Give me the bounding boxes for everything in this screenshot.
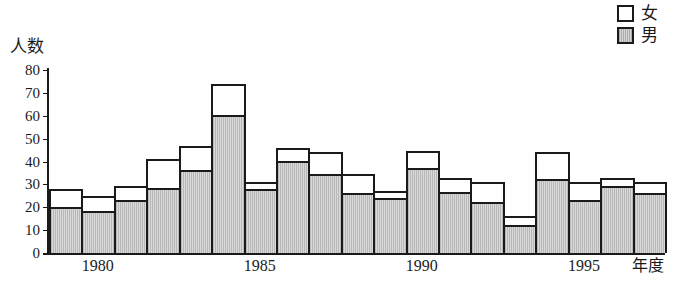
y-tick-label: 80 [25, 63, 40, 78]
bar-1979 [49, 189, 83, 253]
bar-segment-male [408, 170, 438, 253]
bar-segment-male [505, 227, 535, 253]
bar-segment-female [213, 86, 243, 118]
bar-segment-male [310, 176, 340, 253]
bar-segment-male [213, 117, 243, 253]
y-tick-label: 60 [25, 108, 40, 123]
y-tick-label: 50 [25, 131, 40, 146]
bar-segment-male [537, 181, 567, 253]
y-tick-mark [43, 139, 48, 140]
y-tick-label: 0 [33, 246, 41, 261]
y-tick-label: 70 [25, 85, 40, 100]
bar-segment-female [310, 154, 340, 175]
x-tick-label-1980: 1980 [82, 258, 114, 274]
legend-label-female: 女 [641, 5, 658, 22]
bar-segment-female [83, 198, 113, 214]
bar-segment-female [570, 184, 600, 202]
bar-1985 [244, 182, 278, 253]
bar-1986 [276, 148, 310, 253]
bar-segment-male [343, 195, 373, 253]
y-tick-label: 10 [25, 223, 40, 238]
bar-segment-female [440, 180, 470, 195]
chart-legend: 女 男 [617, 4, 658, 45]
bar-1993 [503, 216, 537, 253]
bar-segment-female [278, 150, 308, 163]
bar-1994 [535, 152, 569, 253]
y-tick-mark [43, 184, 48, 185]
bar-1980 [81, 196, 115, 253]
bar-1992 [470, 182, 504, 253]
bar-1984 [211, 84, 245, 253]
bar-segment-male [635, 195, 665, 253]
x-tick-label-1990: 1990 [406, 258, 438, 274]
white-square-icon [617, 5, 634, 22]
legend-item-female: 女 [617, 4, 658, 23]
bar-segment-female [408, 153, 438, 170]
bar-segment-male [51, 209, 81, 253]
bar-segment-female [246, 184, 276, 191]
gray-square-icon [617, 27, 634, 44]
bar-segment-female [343, 176, 373, 195]
bar-segment-female [472, 184, 502, 204]
bar-segment-female [602, 180, 632, 189]
y-tick-mark [43, 162, 48, 163]
bar-segment-female [51, 191, 81, 209]
legend-label-male: 男 [641, 27, 658, 44]
bar-segment-female [537, 154, 567, 181]
x-axis-title: 年度 [632, 258, 664, 274]
bar-1997 [633, 182, 667, 253]
bar-segment-female [116, 188, 146, 202]
bar-segment-male [181, 172, 211, 253]
bar-segment-female [181, 148, 211, 173]
bar-segment-male [375, 200, 405, 253]
bar-1981 [114, 186, 148, 253]
x-tick-label-1985: 1985 [244, 258, 276, 274]
bar-segment-male [246, 191, 276, 253]
plot-area: 01020304050607080 [49, 70, 665, 253]
y-tick-mark [43, 253, 48, 254]
bar-segment-male [148, 190, 178, 253]
bar-segment-female [148, 161, 178, 190]
y-tick-mark [43, 230, 48, 231]
bar-segment-male [602, 188, 632, 253]
bar-segment-female [505, 218, 535, 227]
bar-1983 [179, 146, 213, 254]
y-tick-mark [43, 93, 48, 94]
stacked-bar-chart-figure: 女 男 人数 01020304050607080 年度 198019851990… [0, 0, 676, 284]
bar-1989 [373, 191, 407, 253]
bar-segment-male [440, 194, 470, 253]
y-tick-label: 30 [25, 177, 40, 192]
y-axis-title: 人数 [10, 32, 44, 57]
y-tick-mark [43, 207, 48, 208]
bar-segment-male [278, 163, 308, 253]
bar-1988 [341, 174, 375, 253]
y-tick-label: 40 [25, 154, 40, 169]
bar-1996 [600, 178, 634, 253]
legend-item-male: 男 [617, 26, 658, 45]
y-tick-label: 20 [25, 200, 40, 215]
x-axis-line [43, 253, 665, 255]
bar-1991 [438, 178, 472, 253]
bar-segment-male [83, 213, 113, 253]
bar-segment-male [116, 202, 146, 253]
x-tick-label-1995: 1995 [568, 258, 600, 274]
bar-segment-female [375, 193, 405, 200]
y-tick-mark [43, 116, 48, 117]
bar-segment-male [472, 204, 502, 253]
bar-1982 [146, 159, 180, 253]
bar-1987 [308, 152, 342, 253]
bar-1990 [406, 151, 440, 253]
y-tick-mark [43, 70, 48, 71]
bar-1995 [568, 182, 602, 253]
bar-segment-male [570, 202, 600, 253]
bar-segment-female [635, 184, 665, 195]
